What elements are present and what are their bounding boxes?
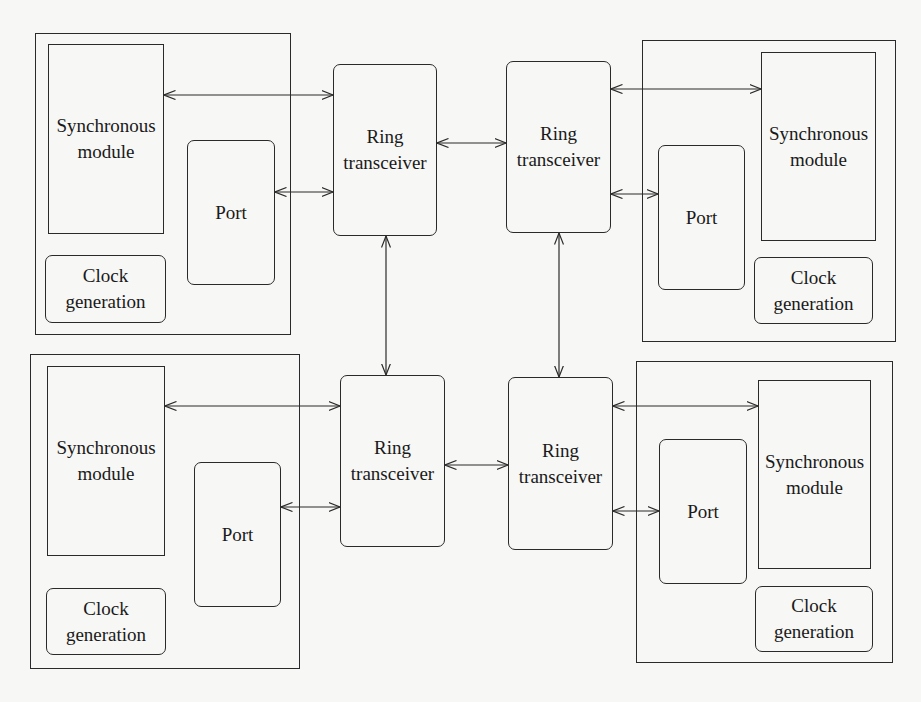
- ring-network-diagram: Synchronous module Port Clock generation…: [0, 0, 921, 702]
- connector-layer: [0, 0, 921, 702]
